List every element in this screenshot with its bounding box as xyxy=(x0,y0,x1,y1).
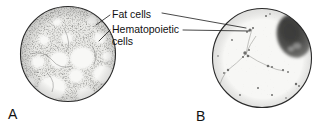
annotation-label-hematopoietic-cells-line2: cells xyxy=(112,35,133,47)
panel-letter-a: A xyxy=(8,106,18,122)
histology-figure: Fat cells Hematopoietic cells A B xyxy=(0,0,330,127)
panel-a-field xyxy=(18,4,120,109)
panel-b-field xyxy=(210,6,316,112)
panel-letter-b: B xyxy=(196,108,205,124)
figure-canvas: Fat cells Hematopoietic cells A B xyxy=(0,0,330,127)
annotation-label-hematopoietic-cells-line1: Hematopoietic xyxy=(112,23,179,35)
panel-b-vignette xyxy=(210,6,316,112)
panel-a-vignette xyxy=(18,4,120,106)
annotation-label-fat-cells: Fat cells xyxy=(112,8,151,20)
